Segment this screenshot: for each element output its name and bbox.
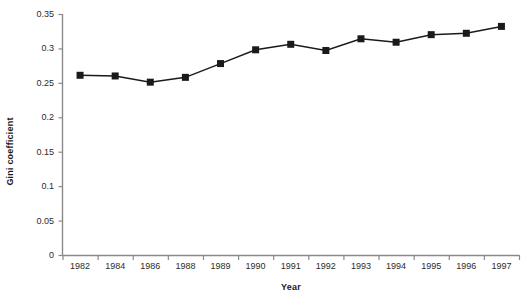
data-point-marker xyxy=(287,41,294,48)
x-axis-title: Year xyxy=(63,282,519,292)
data-point-marker xyxy=(252,46,259,53)
data-markers xyxy=(77,23,505,86)
data-point-marker xyxy=(498,23,505,30)
plot-area xyxy=(0,0,532,303)
data-point-marker xyxy=(428,31,435,38)
gini-coefficient-line-chart: Gini coefficient 00.050.10.150.20.250.30… xyxy=(0,0,532,303)
data-point-marker xyxy=(182,74,189,81)
data-point-marker xyxy=(393,39,400,46)
data-point-marker xyxy=(77,72,84,79)
data-point-marker xyxy=(147,79,154,86)
data-point-marker xyxy=(322,47,329,54)
axis-lines xyxy=(62,14,519,256)
data-point-marker xyxy=(217,60,224,67)
data-point-marker xyxy=(112,72,119,79)
data-point-marker xyxy=(357,35,364,42)
data-line xyxy=(80,26,501,82)
data-point-marker xyxy=(463,30,470,37)
